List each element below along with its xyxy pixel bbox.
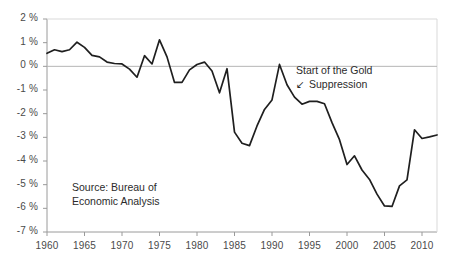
y-tick-label: -7 % xyxy=(2,225,38,236)
y-tick-label: 1 % xyxy=(2,36,38,47)
x-tick-label: 1985 xyxy=(215,240,255,251)
gold-annotation-line1: Start of the Gold xyxy=(296,63,372,77)
y-tick-label: -4 % xyxy=(2,154,38,165)
x-tick-label: 1980 xyxy=(177,240,217,251)
source-annotation: Source: Bureau of Economic Analysis xyxy=(72,180,160,208)
source-annotation-line2: Economic Analysis xyxy=(72,194,160,208)
y-tick-label: -1 % xyxy=(2,83,38,94)
y-tick-label: -2 % xyxy=(2,107,38,118)
gold-suppression-annotation: Start of the Gold ↙Suppression xyxy=(296,63,372,91)
x-tick-label: 1975 xyxy=(140,240,180,251)
x-tick-label: 2005 xyxy=(365,240,405,251)
down-left-arrow-icon: ↙ xyxy=(296,77,309,91)
x-tick-label: 1970 xyxy=(102,240,142,251)
chart-plot-area xyxy=(0,0,455,266)
x-tick-label: 1990 xyxy=(252,240,292,251)
y-tick-label: 0 % xyxy=(2,59,38,70)
y-tick-label: -3 % xyxy=(2,130,38,141)
chart-container: 2 %1 %0 %-1 %-2 %-3 %-4 %-5 %-6 %-7 % 19… xyxy=(0,0,455,266)
source-annotation-line1: Source: Bureau of xyxy=(72,180,160,194)
gold-annotation-line2-row: ↙Suppression xyxy=(296,77,372,91)
x-tick-label: 2010 xyxy=(402,240,442,251)
y-tick-label: 2 % xyxy=(2,12,38,23)
x-tick-label: 1965 xyxy=(65,240,105,251)
y-tick-label: -5 % xyxy=(2,178,38,189)
y-tick-label: -6 % xyxy=(2,201,38,212)
gold-annotation-line2: Suppression xyxy=(309,78,367,90)
x-tick-label: 1995 xyxy=(290,240,330,251)
x-tick-label: 1960 xyxy=(27,240,67,251)
x-tick-label: 2000 xyxy=(327,240,367,251)
